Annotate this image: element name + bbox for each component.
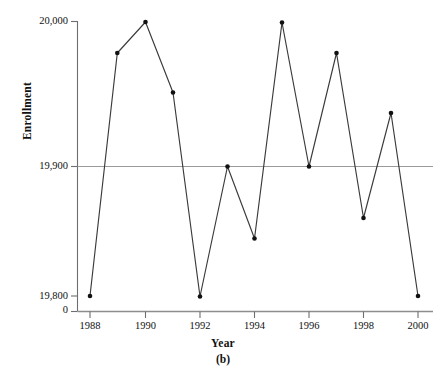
data-point-1989: [115, 51, 120, 56]
data-point-1999: [389, 111, 394, 116]
data-point-1992: [198, 294, 203, 299]
data-point-1995: [280, 20, 285, 25]
data-point-1993: [225, 164, 230, 169]
x-tick-label-1994: 1994: [233, 320, 277, 331]
data-point-1994: [252, 236, 257, 241]
y-tick-marks: [71, 22, 78, 312]
data-series-enrollment: [90, 22, 418, 297]
data-point-1997: [334, 51, 339, 56]
y-tick-label-19800: 19,800: [10, 290, 68, 301]
data-point-1998: [361, 216, 366, 221]
figure-panel-b: 20,000 19,900 19,800 0 1988 1990 1992 19…: [0, 0, 447, 377]
y-tick-label-20000: 20,000: [10, 15, 68, 26]
y-tick-label-19900: 19,900: [10, 160, 68, 171]
y-tick-label-0: 0: [10, 304, 68, 315]
x-tick-label-1998: 1998: [342, 320, 386, 331]
x-tick-label-2000: 2000: [396, 320, 440, 331]
data-point-2000: [416, 294, 421, 299]
x-axis-title: Year: [178, 337, 268, 349]
x-tick-label-1990: 1990: [124, 320, 168, 331]
x-tick-label-1988: 1988: [68, 320, 112, 331]
y-axis-title: Enrollment: [21, 56, 33, 166]
data-point-1988: [88, 294, 93, 299]
data-point-1990: [143, 20, 148, 25]
data-point-1991: [171, 90, 176, 95]
x-tick-label-1996: 1996: [287, 320, 331, 331]
panel-label: (b): [178, 353, 268, 365]
data-point-markers: [88, 20, 421, 299]
x-tick-label-1992: 1992: [178, 320, 222, 331]
x-tick-marks: [90, 312, 418, 319]
data-point-1996: [307, 164, 312, 169]
caption-partial-text: [18, 369, 438, 377]
